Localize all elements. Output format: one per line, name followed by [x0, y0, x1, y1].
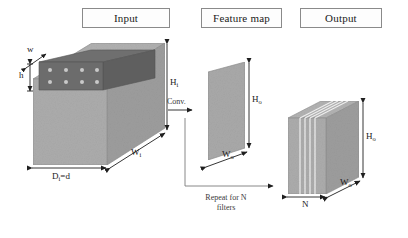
input-filter-height-arrow — [27, 64, 33, 91]
label-input-width-text: W — [131, 147, 140, 157]
label-feature-map-height-text: H — [252, 94, 259, 104]
input-volume-front-face — [33, 79, 107, 165]
output-volume-front-face — [288, 118, 326, 194]
label-input-depth: Di=d — [52, 172, 70, 181]
label-output-count: N — [302, 200, 309, 209]
label-output-width-sub: o — [349, 181, 352, 188]
label-input-height-text: H — [170, 77, 177, 87]
label-conv: Conv. — [167, 97, 186, 107]
feature-map-face — [208, 62, 245, 160]
label-filter-height: h — [19, 71, 24, 80]
filter-front-face — [39, 62, 103, 90]
figure-canvas: Input Feature map Output — [0, 0, 408, 238]
label-input-width-sub: i — [140, 151, 142, 158]
label-input-width: Wi — [131, 148, 141, 157]
label-repeat-line1: Repeat for N — [186, 193, 266, 203]
label-output-height-text: H — [366, 131, 373, 141]
label-filter-width: w — [27, 45, 34, 54]
label-feature-map-width-text: W — [222, 149, 231, 159]
feature-map-plane — [208, 62, 245, 160]
label-input-depth-value: =d — [60, 171, 70, 181]
label-input-depth-text: D — [52, 171, 59, 181]
label-feature-map-height: Ho — [252, 95, 262, 104]
label-output-width-text: W — [340, 177, 349, 187]
label-output-height-sub: o — [373, 135, 376, 142]
label-input-height-sub: i — [177, 81, 179, 88]
label-feature-map-width: Wo — [222, 150, 234, 159]
label-feature-map-height-sub: o — [259, 98, 262, 105]
label-repeat-for-n-filters: Repeat for N filters — [186, 193, 266, 213]
label-feature-map-width-sub: o — [231, 153, 234, 160]
label-input-height: Hi — [170, 78, 178, 87]
label-output-width: Wo — [340, 178, 352, 187]
label-repeat-line2: filters — [186, 203, 266, 213]
label-output-height: Ho — [366, 132, 376, 141]
